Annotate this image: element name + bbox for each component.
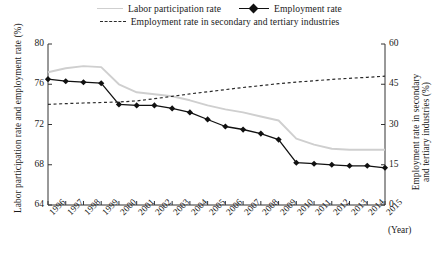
- series-marker: [45, 76, 51, 82]
- y-axis-left-tick-label: 76: [22, 78, 44, 88]
- chart-figure: Labor participation rate Employment rate…: [0, 0, 439, 254]
- y-axis-right-tick-label: 45: [389, 78, 411, 88]
- y-axis-left-tick-label: 68: [22, 159, 44, 169]
- y-axis-right-tick-label: 15: [389, 159, 411, 169]
- y-axis-left-tick-label: 64: [22, 199, 44, 209]
- y-axis-right-tick-label: 60: [389, 38, 411, 48]
- y-axis-left-tick-label: 72: [22, 119, 44, 129]
- series-marker: [346, 163, 352, 169]
- y-axis-right-tick-label: 30: [389, 119, 411, 129]
- y-axis-left-tick-label: 80: [22, 38, 44, 48]
- x-axis-unit-label: (Year): [388, 225, 411, 235]
- series-marker: [63, 78, 69, 84]
- series-marker: [151, 102, 157, 108]
- series-marker: [222, 123, 228, 129]
- series-marker: [240, 126, 246, 132]
- series-marker: [364, 163, 370, 169]
- series-marker: [169, 105, 175, 111]
- series-marker: [329, 162, 335, 168]
- axes-lines: [48, 44, 385, 205]
- series-marker: [187, 109, 193, 115]
- series-line-employment-rate-in-secondary-and-tertiary-industries: [48, 76, 385, 104]
- series-line-employment-rate: [48, 79, 385, 168]
- series-marker: [311, 161, 317, 167]
- series-marker: [134, 102, 140, 108]
- series-marker: [258, 130, 264, 136]
- data-series: [45, 66, 388, 171]
- series-marker: [80, 79, 86, 85]
- series-marker: [382, 165, 388, 171]
- series-marker: [205, 116, 211, 122]
